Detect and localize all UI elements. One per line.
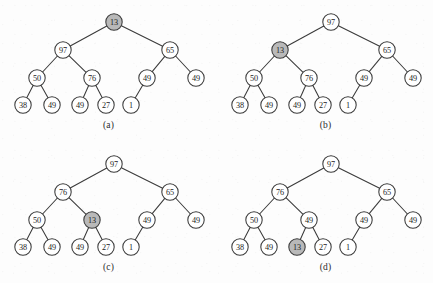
node-label: 97 [327,160,335,169]
tree-node: 76 [272,184,288,200]
tree-edge [70,26,107,46]
tree-edge [152,198,165,213]
tree-node: 27 [315,239,331,255]
tree-node: 27 [315,97,331,113]
tree-node: 49 [356,70,372,86]
tree-node: 97 [323,14,339,30]
tree-node: 1 [123,239,139,255]
tree-edge [313,85,319,97]
node-label: 49 [76,101,84,110]
node-label: 49 [409,74,417,83]
node-label: 97 [59,46,67,55]
tree-node: 49 [301,212,317,228]
tree-node: 65 [162,184,178,200]
tree-edge [244,227,250,239]
tree-node: 38 [232,239,248,255]
tree-edge [369,56,382,71]
node-label: 13 [276,46,284,55]
tree-edge [41,227,48,240]
tree-edge [338,26,379,47]
tree-node: 76 [84,70,100,86]
tree-node: 49 [44,97,60,113]
tree-edge [96,85,102,97]
node-label: 50 [33,74,41,83]
tree-edge [258,85,265,98]
tree-edge [287,26,324,46]
panel-d-caption: (d) [217,262,433,272]
tree-node: 13 [84,212,100,228]
node-label: 1 [129,243,133,252]
tree-edge [135,227,143,240]
node-label: 49 [76,243,84,252]
node-label: 27 [102,243,110,252]
tree-node: 49 [405,212,421,228]
tree-node: 65 [379,184,395,200]
panel-a-caption: (a) [0,120,217,130]
tree-edge [43,198,58,214]
tree-node: 27 [98,239,114,255]
node-label: 76 [59,188,67,197]
node-label: 76 [88,74,96,83]
node-label: 49 [192,216,200,225]
tree-edge [176,198,191,214]
tree-node: 50 [246,70,262,86]
node-label: 1 [346,101,350,110]
tree-node: 49 [405,70,421,86]
tree-node: 38 [15,97,31,113]
tree-node: 38 [15,239,31,255]
tree-node: 49 [72,239,88,255]
node-label: 65 [383,188,391,197]
tree-edge [27,85,33,97]
node-label: 49 [265,101,273,110]
tree-edge [83,85,88,97]
tree-node: 27 [98,97,114,113]
tree-edge [69,198,86,215]
tree-node: 97 [323,156,339,172]
node-label: 49 [265,243,273,252]
node-label: 27 [319,243,327,252]
tree-node: 13 [272,42,288,58]
tree-edge [393,198,408,214]
tree-node: 49 [356,212,372,228]
node-label: 49 [293,101,301,110]
tree-edge [393,56,408,72]
tree-node: 49 [188,212,204,228]
tree-node: 49 [261,97,277,113]
tree-edge [152,56,165,71]
node-label: 1 [346,243,350,252]
tree-node: 49 [139,212,155,228]
tree-node: 97 [106,156,122,172]
node-label: 38 [236,243,244,252]
tree-edge [27,227,33,239]
tree-node: 97 [55,42,71,58]
node-label: 13 [88,216,96,225]
node-label: 49 [360,74,368,83]
node-label: 49 [48,243,56,252]
tree-edge [70,168,107,188]
node-label: 38 [236,101,244,110]
tree-edge [313,227,319,239]
node-label: 49 [305,216,313,225]
tree-edge [300,85,305,97]
tree-node: 50 [29,212,45,228]
tree-edge [369,198,382,213]
tree-node: 76 [301,70,317,86]
tree-edge [69,56,86,73]
tree-edge [352,227,360,240]
node-label: 49 [143,216,151,225]
tree-node: 65 [379,42,395,58]
tree-edge [96,227,102,239]
tree-edge [41,85,48,98]
tree-node: 49 [139,70,155,86]
tree-node: 1 [123,97,139,113]
tree-edge [286,56,303,73]
node-label: 13 [110,18,118,27]
panel-b-caption: (b) [217,120,433,130]
tree-edge [121,26,162,47]
tree-node: 49 [188,70,204,86]
tree-edge [338,168,379,189]
tree-edge [244,85,250,97]
tree-node: 76 [55,184,71,200]
tree-node: 38 [232,97,248,113]
node-label: 1 [129,101,133,110]
